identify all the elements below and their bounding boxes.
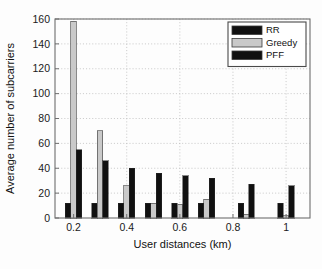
bar-pff-0.3 [103, 161, 108, 218]
x-axis-tick-labels: 0.20.40.60.81 [66, 221, 289, 233]
bar-rr-0.6 [172, 203, 177, 218]
bar-greedy-0.3 [97, 131, 102, 218]
y-tick-label: 60 [38, 137, 50, 149]
bar-greedy-0.7 [204, 199, 209, 218]
bar-pff-1 [289, 186, 294, 218]
bar-pff-0.5 [156, 173, 161, 218]
bar-greedy-0.4 [124, 186, 129, 218]
legend-swatch-greedy [232, 39, 262, 48]
bar-rr-0.4 [118, 203, 123, 218]
bar-greedy-0.5 [151, 203, 156, 218]
y-tick-label: 160 [32, 13, 50, 25]
bar-rr-0.7 [198, 203, 203, 218]
bar-rr-1 [278, 203, 283, 218]
y-axis-title: Average number of subcarriers [4, 43, 16, 194]
x-tick-label: 0.8 [226, 221, 241, 233]
x-tick-label: 1 [283, 221, 289, 233]
y-tick-label: 40 [38, 162, 50, 174]
x-tick-label: 0.4 [119, 221, 134, 233]
chart-legend[interactable]: RRGreedyPFF [228, 22, 306, 67]
y-tick-label: 100 [32, 87, 50, 99]
bar-pff-0.7 [209, 178, 214, 218]
bar-rr-0.3 [92, 203, 97, 218]
legend-label-rr: RR [266, 24, 280, 35]
bar-rr-0.85 [238, 203, 243, 218]
bar-chart: 020406080100120140160 0.20.40.60.81 User… [0, 0, 322, 269]
legend-label-pff: PFF [266, 49, 284, 60]
legend-swatch-pff [232, 51, 262, 60]
bar-pff-0.85 [249, 184, 254, 218]
y-tick-label: 140 [32, 38, 50, 50]
x-axis-title: User distances (km) [134, 238, 232, 250]
y-axis-tick-labels: 020406080100120140160 [32, 13, 50, 224]
bar-pff-0.2 [76, 150, 81, 218]
x-tick-label: 0.6 [173, 221, 188, 233]
legend-swatch-rr [232, 26, 262, 35]
bar-greedy-0.2 [71, 21, 76, 218]
bar-pff-0.4 [129, 168, 134, 218]
bar-greedy-0.85 [244, 214, 249, 218]
figure-canvas: 020406080100120140160 0.20.40.60.81 User… [0, 0, 322, 269]
legend-label-greedy: Greedy [266, 37, 297, 48]
bar-rr-0.5 [145, 203, 150, 218]
x-tick-label: 0.2 [66, 221, 81, 233]
y-tick-label: 120 [32, 62, 50, 74]
y-tick-label: 20 [38, 187, 50, 199]
y-tick-label: 0 [44, 212, 50, 224]
y-tick-label: 80 [38, 112, 50, 124]
bar-pff-0.6 [183, 176, 188, 218]
bar-rr-0.2 [65, 203, 70, 218]
